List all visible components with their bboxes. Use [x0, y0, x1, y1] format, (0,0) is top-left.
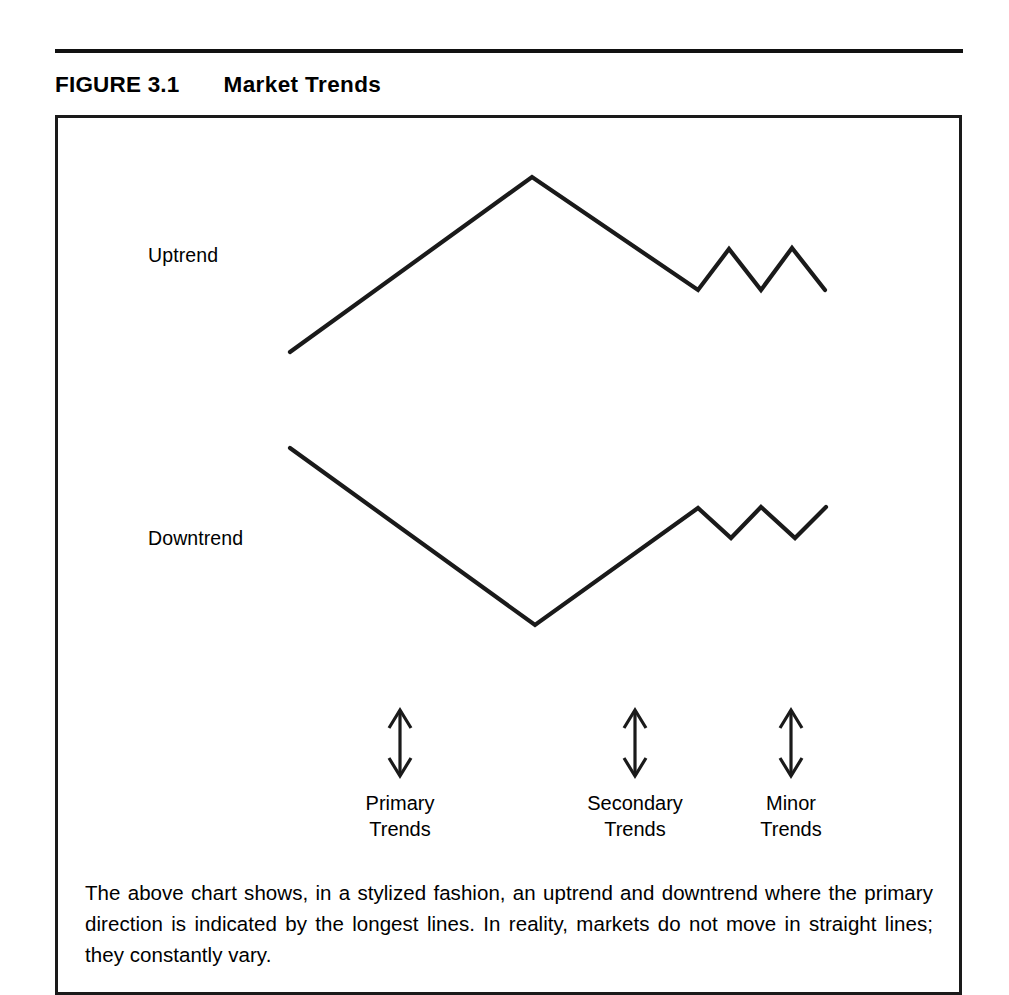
minor-trends-line2: Trends [760, 816, 822, 842]
primary-trends-line2: Trends [366, 816, 435, 842]
secondary-trends-line2: Trends [587, 816, 683, 842]
secondary-trends-caption: Secondary Trends [587, 790, 683, 842]
figure-number: FIGURE 3.1 [55, 72, 180, 98]
figure-heading: FIGURE 3.1 Market Trends [55, 72, 381, 102]
primary-trends-line1: Primary [366, 790, 435, 816]
uptrend-label: Uptrend [148, 244, 218, 267]
primary-trends-caption: Primary Trends [366, 790, 435, 842]
minor-trends-line1: Minor [760, 790, 822, 816]
top-rule [55, 49, 963, 53]
secondary-trends-line1: Secondary [587, 790, 683, 816]
minor-trends-caption: Minor Trends [760, 790, 822, 842]
figure-caption: The above chart shows, in a stylized fas… [85, 877, 933, 970]
figure-title: Market Trends [224, 72, 382, 98]
downtrend-label: Downtrend [148, 527, 243, 550]
